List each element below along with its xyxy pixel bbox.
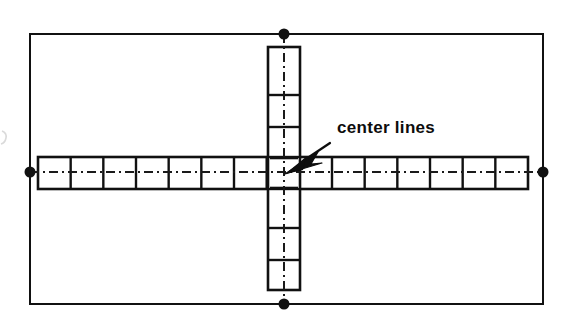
center-lines-label: center lines xyxy=(337,118,435,137)
bottom-center-marker xyxy=(279,299,290,310)
left-center-marker xyxy=(25,167,36,178)
right-center-marker xyxy=(538,167,549,178)
diagram-canvas: center lines xyxy=(0,0,569,334)
center-lines-diagram: center lines xyxy=(0,0,569,334)
top-center-marker xyxy=(279,29,290,40)
